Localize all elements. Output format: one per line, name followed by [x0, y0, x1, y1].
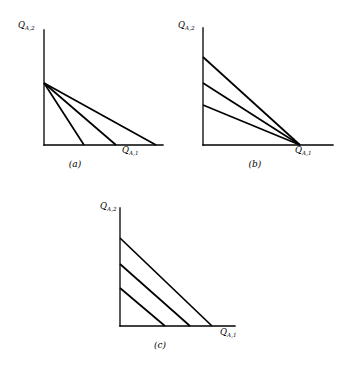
y-axis-label-c: QA,2 — [100, 202, 117, 211]
y-axis-label-b: QA,2 — [178, 21, 195, 30]
x-axis-label-a: QA,1 — [122, 146, 139, 155]
x-axis-label-a-sub: A,1 — [129, 150, 139, 156]
y-axis-label-a-sub: A,2 — [25, 25, 35, 31]
constraint-line-b-1 — [203, 57, 300, 145]
panel-caption-b: (b) — [243, 160, 267, 169]
figure-root: QA,2 QA,1 (a) QA,2 QA,1 (b) QA,2 QA,1 — [0, 0, 342, 367]
constraint-line-b-3 — [203, 105, 300, 145]
constraint-line-a-1 — [44, 83, 84, 145]
constraint-line-c-3 — [120, 238, 212, 326]
panel-caption-a: (a) — [63, 160, 87, 169]
constraint-line-c-1 — [120, 288, 165, 326]
x-axis-label-c-sub: A,1 — [227, 332, 237, 338]
x-axis-label-b: QA,1 — [295, 146, 312, 155]
y-axis-label-c-sub: A,2 — [107, 206, 117, 212]
x-axis-label-b-sub: A,1 — [302, 150, 312, 156]
constraint-line-a-2 — [44, 83, 116, 145]
y-axis-label-b-sub: A,2 — [185, 25, 195, 31]
y-axis-label-a: QA,2 — [18, 21, 35, 30]
panel-b: QA,2 QA,1 (b) — [165, 0, 342, 184]
panel-c: QA,2 QA,1 (c) — [80, 180, 260, 367]
panel-caption-c: (c) — [148, 341, 172, 350]
constraint-line-b-2 — [203, 83, 300, 145]
constraint-line-a-3 — [44, 83, 156, 145]
panel-a: QA,2 QA,1 (a) — [0, 0, 171, 184]
x-axis-label-c: QA,1 — [220, 328, 237, 337]
